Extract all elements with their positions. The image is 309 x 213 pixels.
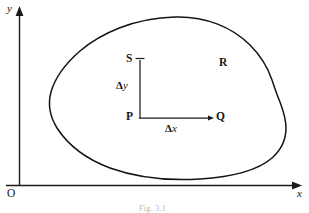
delta-x-label: Δx (165, 123, 177, 134)
y-axis-arrowhead (16, 6, 24, 16)
delta-y-label: Δy (116, 80, 128, 91)
x-axis-label: x (297, 188, 302, 199)
vertex-label-q: Q (216, 111, 225, 123)
delta-y-variable: y (123, 79, 128, 91)
origin-label: O (7, 188, 15, 200)
vertex-label-s: S (126, 53, 132, 65)
figure-drawing (0, 0, 309, 213)
region-label-r: R (219, 57, 227, 69)
y-axis-label: y (7, 3, 12, 14)
figure-caption: Fig. 3.1 (139, 205, 166, 213)
delta-y-symbol: Δ (116, 79, 123, 91)
q-endpoint-arrowhead (208, 115, 214, 120)
delta-x-variable: x (172, 122, 177, 134)
vertex-label-p: P (126, 111, 133, 123)
delta-x-symbol: Δ (165, 122, 172, 134)
region-boundary-curve (49, 17, 286, 180)
figure-container: y x O R S P Q Δy Δx Fig. 3.1 (0, 0, 309, 213)
